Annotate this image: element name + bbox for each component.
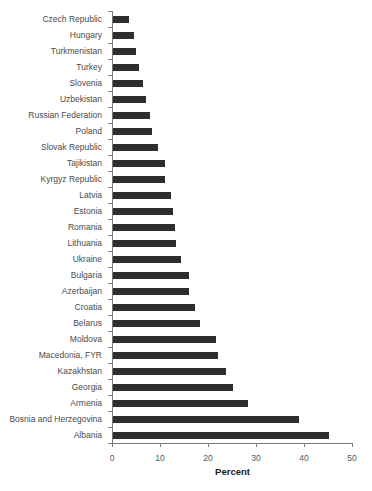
category-label: Moldova: [0, 331, 102, 347]
bar: [113, 128, 152, 135]
bar-row: Georgia: [0, 379, 372, 395]
bar-row: Slovak Republic: [0, 139, 372, 155]
bar-row: Romania: [0, 219, 372, 235]
bar: [113, 272, 189, 279]
y-tick: [108, 219, 112, 220]
bar: [113, 208, 173, 215]
x-tick: [304, 444, 305, 447]
bar: [113, 144, 158, 151]
y-tick: [108, 11, 112, 12]
category-label: Kyrgyz Republic: [0, 171, 102, 187]
bar-row: Ukraine: [0, 251, 372, 267]
y-tick: [108, 363, 112, 364]
x-tick: [160, 444, 161, 447]
category-label: Turkey: [0, 59, 102, 75]
bar: [113, 176, 165, 183]
bar-row: Turkey: [0, 59, 372, 75]
bar-row: Czech Republic: [0, 11, 372, 27]
category-label: Tajikistan: [0, 155, 102, 171]
y-tick: [108, 75, 112, 76]
bar-row: Azerbaijan: [0, 283, 372, 299]
y-tick: [108, 235, 112, 236]
bar-row: Croatia: [0, 299, 372, 315]
bar: [113, 160, 165, 167]
bar: [113, 400, 248, 407]
bar: [113, 336, 216, 343]
bar: [113, 304, 195, 311]
bar-row: Hungary: [0, 27, 372, 43]
y-tick: [108, 203, 112, 204]
bar-row: Slovenia: [0, 75, 372, 91]
category-label: Hungary: [0, 27, 102, 43]
bar-row: Kyrgyz Republic: [0, 171, 372, 187]
y-tick: [108, 427, 112, 428]
x-tick-label: 30: [244, 453, 268, 463]
bar-row: Armenia: [0, 395, 372, 411]
y-tick: [108, 315, 112, 316]
bar: [113, 384, 233, 391]
category-label: Albania: [0, 427, 102, 443]
bar-row: Turkmenistan: [0, 43, 372, 59]
category-label: Russian Federation: [0, 107, 102, 123]
y-tick: [108, 27, 112, 28]
bar-row: Bosnia and Herzegovina: [0, 411, 372, 427]
bar-row: Moldova: [0, 331, 372, 347]
bar-row: Russian Federation: [0, 107, 372, 123]
category-label: Uzbekistan: [0, 91, 102, 107]
y-tick: [108, 379, 112, 380]
bar: [113, 288, 189, 295]
x-tick-label: 50: [340, 453, 364, 463]
category-label: Bosnia and Herzegovina: [0, 411, 102, 427]
category-label: Poland: [0, 123, 102, 139]
y-tick: [108, 331, 112, 332]
x-tick: [352, 444, 353, 447]
bar: [113, 256, 181, 263]
bar-row: Uzbekistan: [0, 91, 372, 107]
category-label: Romania: [0, 219, 102, 235]
bar: [113, 32, 134, 39]
bar: [113, 16, 129, 23]
x-axis-title: Percent: [112, 466, 353, 477]
x-tick-label: 0: [100, 453, 124, 463]
bar: [113, 64, 139, 71]
y-tick: [108, 299, 112, 300]
category-label: Latvia: [0, 187, 102, 203]
category-label: Lithuania: [0, 235, 102, 251]
y-tick: [108, 347, 112, 348]
y-tick: [108, 283, 112, 284]
bar: [113, 416, 299, 423]
bar: [113, 352, 218, 359]
bar-row: Latvia: [0, 187, 372, 203]
y-tick: [108, 267, 112, 268]
y-tick: [108, 43, 112, 44]
y-tick: [108, 395, 112, 396]
bar-row: Poland: [0, 123, 372, 139]
x-tick: [256, 444, 257, 447]
category-label: Kazakhstan: [0, 363, 102, 379]
category-label: Macedonia, FYR: [0, 347, 102, 363]
y-tick: [108, 123, 112, 124]
y-tick: [108, 155, 112, 156]
category-label: Georgia: [0, 379, 102, 395]
bar: [113, 320, 200, 327]
bar: [113, 368, 226, 375]
bar: [113, 48, 136, 55]
bar-row: Tajikistan: [0, 155, 372, 171]
bar: [113, 224, 175, 231]
category-label: Croatia: [0, 299, 102, 315]
category-label: Czech Republic: [0, 11, 102, 27]
bar: [113, 96, 146, 103]
y-axis: [112, 11, 113, 444]
category-label: Azerbaijan: [0, 283, 102, 299]
y-tick: [108, 187, 112, 188]
category-label: Belarus: [0, 315, 102, 331]
y-tick: [108, 411, 112, 412]
bar-row: Macedonia, FYR: [0, 347, 372, 363]
y-tick: [108, 139, 112, 140]
x-tick: [112, 444, 113, 447]
bar-rows: Czech RepublicHungaryTurkmenistanTurkeyS…: [0, 11, 372, 443]
category-label: Slovenia: [0, 75, 102, 91]
x-tick-label: 40: [292, 453, 316, 463]
y-tick: [108, 91, 112, 92]
bar-chart: Czech RepublicHungaryTurkmenistanTurkeyS…: [0, 0, 372, 491]
